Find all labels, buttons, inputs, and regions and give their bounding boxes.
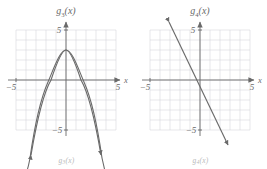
graph-panel-g3: −5 5 5 −5 x g3(x) g3(x) [0,0,133,169]
axes-g3 [8,22,120,136]
x-axis-label-g3: x [123,75,128,85]
axes-g4 [142,22,254,136]
function-label-g4-arg: (x) [199,5,211,17]
curve-g4 [169,22,228,145]
x-tick-positive-g3: 5 [116,82,121,92]
figure-container: −5 5 5 −5 x g3(x) g3(x) [0,0,267,169]
graph-panel-g4: −5 5 5 −5 x g4(x) g4(x) [134,0,267,169]
caption-g4-arg: (x) [199,156,208,165]
function-label-g3-arg: (x) [65,5,77,17]
x-tick-positive-g4: 5 [250,82,255,92]
x-axis-label-g4: x [257,75,262,85]
y-tick-positive-g3: 5 [57,25,62,35]
coordinate-plane-g4: −5 5 5 −5 x g4(x) [134,0,267,169]
y-tick-positive-g4: 5 [191,25,196,35]
y-tick-negative-g3: −5 [52,125,63,135]
caption-g4: g4(x) [134,156,267,167]
coordinate-plane-g3: −5 5 5 −5 x g3(x) [0,0,133,169]
y-tick-negative-g4: −5 [186,125,197,135]
caption-g3: g3(x) [0,156,133,167]
x-tick-negative-g3: −5 [6,82,17,92]
x-tick-negative-g4: −5 [140,82,151,92]
function-label-g3: g3(x) [56,5,76,18]
function-label-g4: g4(x) [190,5,210,18]
caption-g3-arg: (x) [65,156,74,165]
